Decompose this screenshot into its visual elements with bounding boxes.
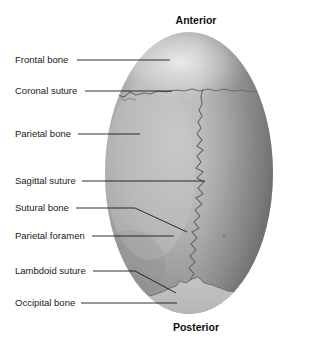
label-parietal-bone: Parietal bone <box>15 129 71 139</box>
label-sagittal-suture: Sagittal suture <box>15 176 76 186</box>
label-occipital-bone: Occipital bone <box>15 298 75 308</box>
skull-superior-view-diagram: Anterior Posterior Frontal bone Coronal … <box>0 0 325 343</box>
occipital-bone-region <box>100 277 280 320</box>
parietal-foramen-dot <box>172 235 174 237</box>
label-sutural-bone: Sutural bone <box>15 203 69 213</box>
heading-posterior: Posterior <box>173 321 219 333</box>
heading-anterior: Anterior <box>176 14 217 26</box>
parietal-foramen-dot <box>223 235 225 237</box>
skull-illustration <box>0 0 325 343</box>
label-parietal-foramen: Parietal foramen <box>15 231 85 241</box>
label-lambdoid-suture: Lambdoid suture <box>15 266 86 276</box>
label-frontal-bone: Frontal bone <box>15 55 68 65</box>
label-coronal-suture: Coronal suture <box>15 86 77 96</box>
